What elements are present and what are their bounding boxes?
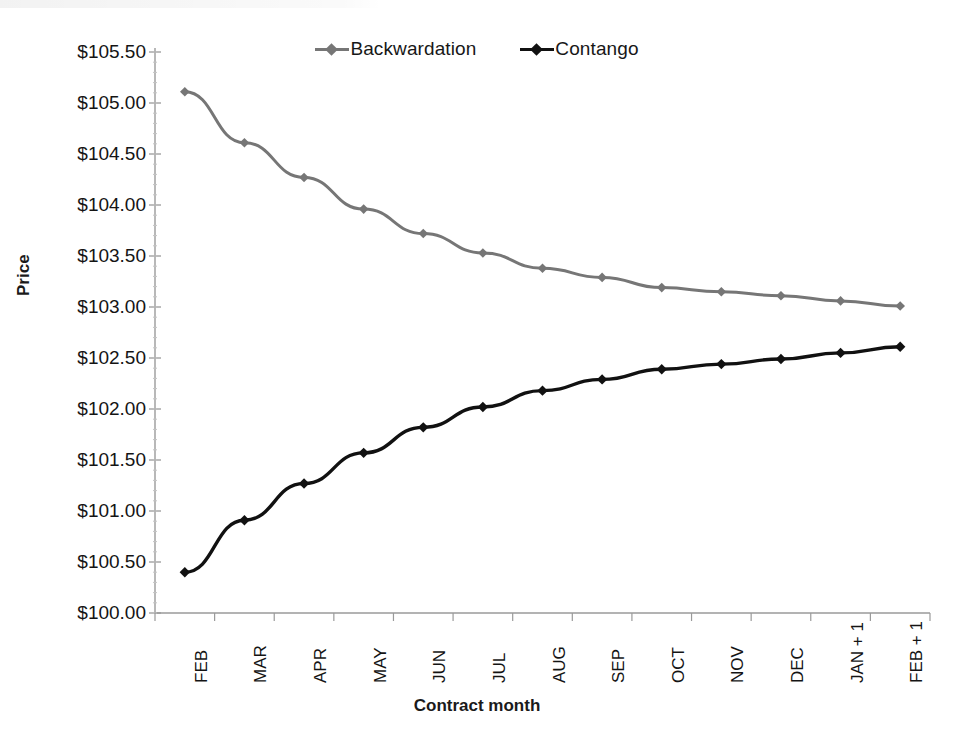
data-point-marker <box>239 515 249 525</box>
data-point-marker <box>478 248 488 258</box>
data-point-marker <box>180 567 190 577</box>
price-curve-chart: Backwardation Contango Price Contract mo… <box>0 0 954 735</box>
series-line-backwardation <box>185 92 900 306</box>
data-point-marker <box>716 359 726 369</box>
data-point-marker <box>836 296 846 306</box>
data-point-marker <box>358 448 368 458</box>
data-point-marker <box>299 478 309 488</box>
data-point-marker <box>299 173 309 183</box>
data-point-marker <box>895 301 905 311</box>
plot-area <box>0 0 954 735</box>
data-point-marker <box>538 263 548 273</box>
data-point-marker <box>537 385 547 395</box>
data-point-marker <box>835 348 845 358</box>
data-point-marker <box>359 204 369 214</box>
series-line-contango <box>185 347 900 572</box>
data-point-marker <box>418 422 428 432</box>
data-point-marker <box>597 374 607 384</box>
data-point-marker <box>776 354 786 364</box>
data-point-marker <box>418 229 428 239</box>
data-point-marker <box>657 364 667 374</box>
data-point-marker <box>180 87 190 97</box>
data-point-marker <box>597 273 607 283</box>
data-point-marker <box>240 138 250 148</box>
data-point-marker <box>657 283 667 293</box>
data-point-marker <box>717 287 727 297</box>
data-point-marker <box>776 291 786 301</box>
data-point-marker <box>478 402 488 412</box>
data-point-marker <box>895 342 905 352</box>
